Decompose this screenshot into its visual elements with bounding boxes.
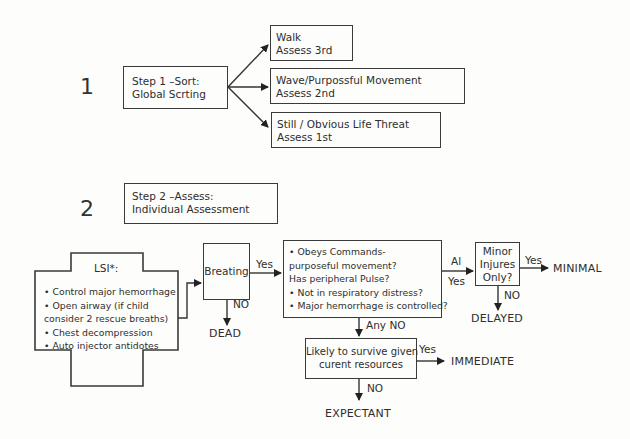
step-2-number: 2: [80, 196, 94, 221]
any-no-label: Any NO: [366, 319, 406, 331]
wave-box: Wave/Purpossful Movement Assess 2nd: [270, 68, 465, 104]
minor-line-1: Minor: [476, 245, 519, 258]
minor-line-2: Injures: [476, 258, 519, 271]
criteria-item: Not in respiratory distress?: [289, 286, 441, 300]
lsi-list: Control major hemorrhage Open airway (if…: [44, 285, 176, 353]
still-label: Still / Obvious Life Threat: [277, 118, 440, 131]
still-box: Still / Obvious Life Threat Assess 1st: [271, 112, 441, 148]
survive-no-label: NO: [367, 382, 383, 394]
step-2-title: Step 2 –Assess:: [132, 190, 277, 203]
criteria-item: Has peripheral Pulse?: [289, 272, 441, 286]
wave-label: Wave/Purpossful Movement: [276, 74, 464, 87]
criteria-item: Obeys Commands-: [289, 245, 441, 259]
minor-injuries-box: Minor Injures Only?: [475, 242, 520, 286]
breathing-label: Breating: [204, 265, 249, 278]
survive-yes-label: Yes: [419, 343, 436, 355]
breathing-yes-label: Yes: [256, 258, 273, 270]
lsi-item: Auto injector antidotes: [44, 339, 176, 353]
criteria-item: purposeful movement?: [289, 259, 441, 273]
breathing-box: Breating: [203, 243, 250, 300]
lsi-item: Chest decompression: [44, 326, 176, 340]
minor-line-3: Only?: [476, 271, 519, 284]
survive-box: Likely to survive given curent resources: [305, 338, 417, 379]
lsi-title: LSI*:: [94, 262, 124, 275]
assessment-list: Obeys Commands- purposeful movement? Has…: [289, 245, 441, 313]
outcome-minimal: MINIMAL: [553, 262, 602, 275]
lsi-item: Control major hemorrhage: [44, 285, 176, 299]
outcome-expectant: EXPECTANT: [325, 407, 391, 420]
survive-line-1: Likely to survive given: [306, 345, 416, 358]
step-1-title: Step 1 –Sort:: [132, 75, 227, 88]
step-1-sort-box: Step 1 –Sort: Global Scrting: [123, 66, 228, 109]
step-2-assess-box: Step 2 –Assess: Individual Assessment: [124, 183, 278, 224]
step-1-number: 1: [80, 74, 94, 99]
survive-line-2: curent resources: [306, 358, 416, 371]
lsi-item: consider 2 rescue breaths): [44, 312, 176, 326]
step-2-subtitle: Individual Assessment: [132, 203, 277, 216]
minor-no-label: NO: [504, 289, 520, 301]
outcome-delayed: DELAYED: [471, 312, 523, 325]
walk-box: Walk Assess 3rd: [270, 25, 353, 61]
lsi-item: Open airway (if child: [44, 299, 176, 313]
walk-priority: Assess 3rd: [276, 44, 352, 57]
wave-priority: Assess 2nd: [276, 87, 464, 100]
step-1-subtitle: Global Scrting: [132, 88, 227, 101]
criteria-item: Major hemorrhage is controlled?: [289, 299, 441, 313]
outcome-immediate: IMMEDIATE: [451, 355, 514, 368]
still-priority: Assess 1st: [277, 131, 440, 144]
assessment-criteria-box: Obeys Commands- purposeful movement? Has…: [283, 240, 442, 318]
all-yes-label-top: Al: [451, 255, 461, 267]
breathing-no-label: NO: [233, 298, 249, 310]
minor-yes-label: Yes: [525, 254, 542, 266]
walk-label: Walk: [276, 31, 352, 44]
outcome-dead: DEAD: [209, 327, 241, 340]
all-yes-label-bottom: Yes: [448, 275, 465, 287]
